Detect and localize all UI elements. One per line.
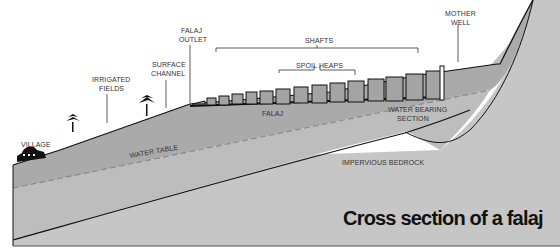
diagram-title: Cross section of a falaj <box>343 207 543 229</box>
falaj-cross-section-diagram: VILLAGE IRRIGATED FIELDS SURFACE CHANNEL… <box>0 0 560 252</box>
mother-well <box>440 66 444 100</box>
label-mother-well-2: WELL <box>451 19 470 26</box>
label-water-bearing-2: SECTION <box>397 115 429 122</box>
label-water-bearing-1: WATER BEARING <box>388 106 447 113</box>
label-impervious-bedrock: IMPERVIOUS BEDROCK <box>342 159 424 166</box>
label-falaj: FALAJ <box>262 110 283 117</box>
label-falaj-outlet-2: OUTLET <box>179 36 208 43</box>
label-shafts: SHAFTS <box>305 37 333 44</box>
palm-tree-icon <box>139 95 155 116</box>
label-falaj-outlet-1: FALAJ <box>181 27 202 34</box>
label-village: VILLAGE <box>21 141 51 148</box>
label-surface-channel-1: SURFACE <box>152 61 186 68</box>
label-surface-channel-2: CHANNEL <box>151 70 185 77</box>
label-mother-well-1: MOTHER <box>445 10 476 17</box>
label-spoil-heaps: SPOIL HEAPS <box>296 62 343 69</box>
palm-tree-icon <box>66 114 80 132</box>
label-irrigated-fields-1: IRRIGATED <box>92 76 131 83</box>
diagram-svg: VILLAGE IRRIGATED FIELDS SURFACE CHANNEL… <box>0 0 560 252</box>
label-irrigated-fields-2: FIELDS <box>99 85 124 92</box>
